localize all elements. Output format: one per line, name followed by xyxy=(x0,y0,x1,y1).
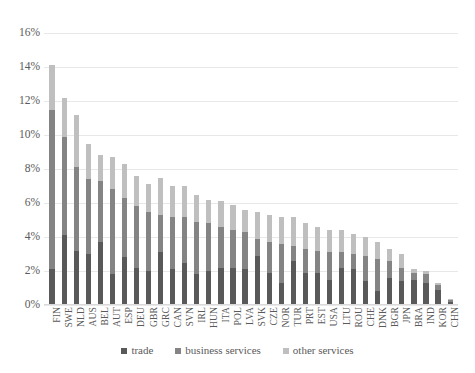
bar-column xyxy=(227,33,239,305)
legend-swatch-icon xyxy=(175,348,181,354)
bar-segment-business-services xyxy=(267,242,272,273)
bar-segment-business-services xyxy=(218,227,223,268)
bar-segment-other-services xyxy=(170,186,175,217)
x-axis-tick: SWE xyxy=(58,306,70,346)
x-axis-tick: BGR xyxy=(384,306,396,346)
x-axis-tick: IRL xyxy=(191,306,203,346)
bar-stack xyxy=(170,186,175,305)
x-axis-tick-label: CHN xyxy=(450,307,460,328)
bar-segment-other-services xyxy=(279,217,284,244)
x-axis-tick: CAN xyxy=(167,306,179,346)
bar-column xyxy=(130,33,142,305)
bar-segment-other-services xyxy=(86,144,91,180)
bar-column xyxy=(82,33,94,305)
bar-stack xyxy=(375,242,380,305)
stacked-bar-chart: 0%2%4%6%8%10%12%14%16% FINSWENLDAUSBELAU… xyxy=(0,0,475,373)
bar-segment-other-services xyxy=(315,227,320,251)
bar-segment-other-services xyxy=(255,212,260,239)
bar-stack xyxy=(206,200,211,305)
bar-stack xyxy=(267,215,272,305)
bar-stack xyxy=(339,230,344,305)
legend-label: other services xyxy=(293,345,354,356)
legend-label: business services xyxy=(185,345,260,356)
bar-column xyxy=(215,33,227,305)
bar-segment-other-services xyxy=(327,230,332,252)
bar-stack xyxy=(327,230,332,305)
x-axis-tick: BEL xyxy=(94,306,106,346)
bar-segment-other-services xyxy=(98,155,103,181)
bar-segment-other-services xyxy=(399,254,404,268)
x-axis-tick: GBR xyxy=(143,306,155,346)
x-axis-tick: SVN xyxy=(179,306,191,346)
bar-stack xyxy=(158,178,163,305)
x-axis-tick: LVA xyxy=(239,306,251,346)
bar-column xyxy=(360,33,372,305)
x-axis-tick: ESP xyxy=(118,306,130,346)
bar-column xyxy=(179,33,191,305)
bar-segment-business-services xyxy=(411,273,416,280)
bar-segment-business-services xyxy=(62,137,67,236)
bar-column xyxy=(372,33,384,305)
bar-segment-other-services xyxy=(206,200,211,224)
legend-swatch-icon xyxy=(121,348,127,354)
x-axis-tick: JPN xyxy=(396,306,408,346)
y-axis-tick-label: 10% xyxy=(19,129,40,141)
bar-stack xyxy=(242,210,247,305)
y-axis-tick-label: 4% xyxy=(25,231,40,243)
y-axis-tick-label: 0% xyxy=(25,299,40,311)
bar-segment-trade xyxy=(110,274,115,305)
bar-segment-business-services xyxy=(315,251,320,273)
bar-segment-trade xyxy=(351,269,356,305)
bar-segment-business-services xyxy=(351,254,356,269)
legend-swatch-icon xyxy=(283,348,289,354)
legend-item[interactable]: trade xyxy=(121,345,153,356)
x-axis-tick: DNK xyxy=(372,306,384,346)
legend-item[interactable]: business services xyxy=(175,345,260,356)
bar-column xyxy=(203,33,215,305)
bar-segment-trade xyxy=(375,291,380,305)
bar-stack xyxy=(134,176,139,305)
bar-segment-trade xyxy=(86,254,91,305)
bar-segment-other-services xyxy=(242,210,247,232)
bar-column xyxy=(420,33,432,305)
x-axis-tick: FIN xyxy=(46,306,58,346)
bar-column xyxy=(191,33,203,305)
bar-segment-business-services xyxy=(206,223,211,271)
bar-segment-business-services xyxy=(86,179,91,254)
bar-segment-business-services xyxy=(74,167,79,250)
y-axis: 0%2%4%6%8%10%12%14%16% xyxy=(0,33,40,305)
bar-column xyxy=(167,33,179,305)
bar-segment-other-services xyxy=(134,176,139,207)
bar-stack xyxy=(315,227,320,305)
bar-segment-business-services xyxy=(255,239,260,256)
bar-segment-other-services xyxy=(387,249,392,261)
bar-segment-other-services xyxy=(194,195,199,222)
x-axis-tick: KOR xyxy=(432,306,444,346)
bar-segment-business-services xyxy=(146,212,151,272)
bar-segment-trade xyxy=(411,280,416,306)
x-axis-tick: CZE xyxy=(263,306,275,346)
bar-segment-other-services xyxy=(303,223,308,249)
bar-segment-other-services xyxy=(146,184,151,211)
bar-column xyxy=(444,33,456,305)
x-axis-tick: BRA xyxy=(408,306,420,346)
bar-segment-trade xyxy=(182,263,187,306)
bar-stack xyxy=(387,249,392,305)
legend-item[interactable]: other services xyxy=(283,345,354,356)
x-axis-tick: NLD xyxy=(70,306,82,346)
bar-segment-trade xyxy=(423,283,428,305)
x-axis-tick: AUT xyxy=(106,306,118,346)
bar-segment-business-services xyxy=(423,274,428,283)
bar-segment-trade xyxy=(435,290,440,305)
bar-segment-business-services xyxy=(98,181,103,242)
bar-segment-other-services xyxy=(230,205,235,231)
bar-column xyxy=(287,33,299,305)
y-axis-tick-label: 12% xyxy=(19,95,40,107)
y-axis-tick-label: 6% xyxy=(25,197,40,209)
x-axis-tick: USA xyxy=(323,306,335,346)
bar-column xyxy=(408,33,420,305)
bar-segment-trade xyxy=(134,268,139,305)
x-axis-tick: LTU xyxy=(336,306,348,346)
bar-segment-trade xyxy=(122,257,127,305)
bar-segment-trade xyxy=(399,281,404,305)
